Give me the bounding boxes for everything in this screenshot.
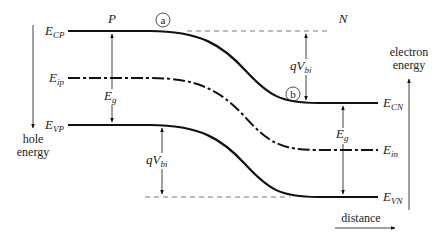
eip-label: Eip bbox=[48, 70, 64, 87]
ecn-label: ECN bbox=[382, 95, 404, 112]
marker-b-label: b bbox=[290, 88, 296, 100]
electron-energy-label-line2: energy bbox=[393, 58, 425, 72]
distance-label: distance bbox=[341, 211, 380, 225]
n-region-label: N bbox=[338, 11, 349, 26]
hole-energy-label-line2: energy bbox=[17, 145, 49, 159]
electron-energy-label-line1: electron bbox=[390, 45, 429, 59]
p-region-label: P bbox=[107, 11, 116, 26]
evn-label: EVN bbox=[382, 189, 403, 206]
valence-band-curve bbox=[68, 125, 378, 197]
intrinsic-level-curve bbox=[68, 78, 378, 150]
hole-energy-label-line1: hole bbox=[23, 132, 44, 146]
evp-label: EVP bbox=[44, 117, 64, 134]
marker-a-label: a bbox=[161, 14, 166, 26]
ecp-label: ECP bbox=[44, 23, 65, 40]
ein-label: Ein bbox=[382, 142, 398, 159]
band-diagram: a b P N ECP Eip EVP ECN Ein EVN Eg Eg qV… bbox=[0, 0, 443, 239]
